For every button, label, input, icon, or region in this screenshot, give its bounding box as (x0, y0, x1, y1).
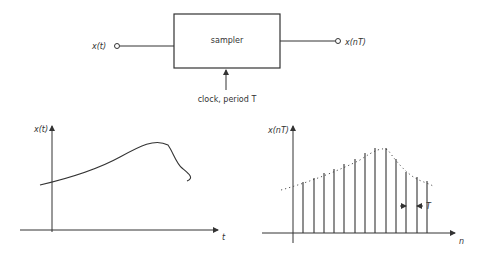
period-label: T (426, 202, 432, 211)
y-axis-label: x(nT) (267, 126, 289, 135)
output-label: x(nT) (344, 38, 366, 47)
sampled-plot: x(nT) n T (262, 126, 464, 246)
output-terminal (336, 39, 341, 44)
y-axis-label: x(t) (33, 125, 48, 134)
sampler-label: sampler (211, 36, 244, 45)
block-diagram: x(t) sampler x(nT) clock, period T (91, 14, 366, 104)
x-axis-label: t (222, 233, 226, 242)
clock-label: clock, period T (198, 95, 257, 104)
envelope-curve (281, 149, 433, 190)
input-label: x(t) (91, 42, 106, 51)
x-axis-label: n (459, 237, 464, 246)
continuous-plot: x(t) t (20, 125, 226, 242)
sampling-diagram: x(t) sampler x(nT) clock, period T x(t) … (0, 0, 489, 254)
sample-lines (303, 148, 427, 233)
signal-curve (40, 142, 191, 185)
input-terminal (115, 44, 120, 49)
